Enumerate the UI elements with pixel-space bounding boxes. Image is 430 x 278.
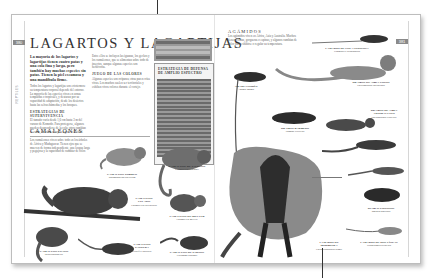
- two-lined-dragon-illustration: [348, 161, 408, 181]
- bearded-dragon-illustration: [268, 109, 318, 127]
- caption: LAGARTO DE GORGUERAChlamydosaurus kingii: [312, 241, 346, 251]
- table-row: [156, 51, 210, 54]
- veiled-chameleon-illustration: [22, 183, 142, 227]
- caption: DRAGÓN DE AGUA CHINOPhysignathus cocinci…: [347, 81, 395, 88]
- section-rule: [30, 136, 150, 137]
- caption: CAMALEÓN DE MELLERChamaeleo melleri: [162, 215, 212, 222]
- book-spread: 380 381 REPTILES LAGARTOS Y LAGARTIJAS L…: [11, 14, 421, 264]
- body-column-2: Entre ellos se incluyen las iguanas, los…: [92, 55, 150, 91]
- australian-water-dragon-illustration: [322, 137, 402, 155]
- dwarf-chameleon-illustration: [30, 225, 74, 265]
- caption: CAMALEÓN PANTERAFurcifer pardalis: [130, 243, 154, 253]
- page-number-left: 380: [13, 40, 25, 45]
- caption: CAMALEÓN PIGMEORhampholeon spectrum: [92, 173, 152, 180]
- two-lined-lizard-illustration: [346, 223, 406, 241]
- caption: CAMALEÓN DE JACKSONChamaeleo jacksonii: [162, 165, 212, 172]
- caption: DRAGÓN DE AGUA AUSTRALIANOPhysignathus l…: [362, 109, 406, 119]
- spiny-tailed-lizard-illustration: [312, 31, 392, 47]
- agamids-text: Los agámidos viven en África, Asia y Aus…: [228, 35, 298, 46]
- page-number-right: 381: [396, 39, 408, 44]
- body-paragraph: Entre ellos se incluyen las iguanas, los…: [92, 55, 150, 70]
- panther-chameleon-illustration: [78, 237, 138, 257]
- table-row: [156, 46, 210, 49]
- body-paragraph: Algunas especies son ovíparas; otras par…: [92, 78, 150, 89]
- running-head: REPTILES: [15, 85, 19, 104]
- caption: DIABLO ESPINOSOMoloch horridus: [358, 207, 404, 214]
- leader-line: [312, 177, 342, 178]
- caption: AGAMA COMÚNAgama agama: [234, 85, 258, 92]
- subheading: ESTRATEGIAS DE SUPERVIVENCIA: [30, 111, 88, 119]
- caption: CAMALEÓN DE PARSONCalumma parsonii: [162, 251, 212, 258]
- margin-rule-right: [408, 21, 409, 257]
- section-heading-chameleons: CAMALEONES: [30, 128, 83, 134]
- classification-table: [154, 39, 212, 61]
- sidebar-heading: ESTRATEGIA DE DEFENSA DE AMPLIO ESPECTRO: [155, 64, 213, 77]
- crop-mark-bottom: [322, 248, 323, 278]
- pygmy-chameleon-illustration: [96, 139, 156, 175]
- body-paragraph: Todos los lagartos y lagartijas son ecto…: [30, 85, 88, 108]
- gutter: [214, 15, 215, 263]
- caption: DRAGÓN BARBUDOPogona vitticeps: [278, 127, 312, 134]
- chameleons-text: Los camaleones viven sobre todo en los á…: [30, 139, 90, 154]
- caption: LAGARTO DE DOS LÍNEASDiporiphora bilinea…: [352, 241, 406, 248]
- table-row: [156, 56, 210, 59]
- caption: CAMALEÓN VELADOChamaeleo calyptratus: [130, 197, 158, 207]
- table-row: [156, 41, 210, 44]
- thorny-devil-illustration: [356, 183, 406, 205]
- caption: CAMALEÓN ENANOBradypodion sp.: [28, 250, 80, 257]
- lede-paragraph: La mayoría de los lagartos y lagartijas …: [30, 55, 88, 83]
